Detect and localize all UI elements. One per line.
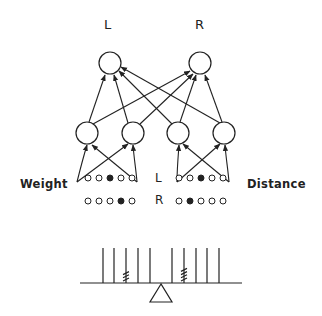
input-unit-weight-left-5 <box>129 175 135 181</box>
input-unit-distance-left-5 <box>220 175 226 181</box>
input-unit-distance-left-3 <box>198 175 204 181</box>
input-unit-distance-right-1 <box>176 198 182 204</box>
input-unit-weight-left-2 <box>96 175 102 181</box>
input-unit-distance-left-4 <box>209 175 215 181</box>
fulcrum <box>150 284 172 302</box>
output-label-right: R <box>195 18 204 31</box>
weights <box>123 268 187 281</box>
hidden-to-output-connections <box>89 67 222 124</box>
hidden-node-2 <box>122 122 144 144</box>
input-unit-weight-right-1 <box>85 198 91 204</box>
input-unit-weight-left-3 <box>107 175 113 181</box>
row-label-left: L <box>155 172 162 184</box>
input-unit-distance-right-3 <box>198 198 204 204</box>
row-label-right: R <box>155 194 163 206</box>
output-node-right <box>189 52 211 74</box>
input-unit-weight-left-4 <box>118 175 124 181</box>
input-unit-distance-right-2 <box>187 198 193 204</box>
network-diagram <box>0 0 322 316</box>
output-label-left: L <box>104 18 111 31</box>
hidden-node-1 <box>76 122 98 144</box>
input-unit-distance-left-2 <box>187 175 193 181</box>
input-unit-weight-left-1 <box>85 175 91 181</box>
input-unit-weight-right-2 <box>96 198 102 204</box>
input-unit-weight-right-5 <box>129 198 135 204</box>
balance-beam <box>80 248 242 302</box>
output-node-left <box>99 52 121 74</box>
input-unit-weight-right-3 <box>107 198 113 204</box>
input-unit-weight-right-4 <box>118 198 124 204</box>
hidden-node-3 <box>167 122 189 144</box>
pegs <box>103 248 219 283</box>
input-unit-distance-left-1 <box>176 175 182 181</box>
input-unit-distance-right-5 <box>220 198 226 204</box>
hidden-node-4 <box>213 122 235 144</box>
distance-label: Distance <box>247 179 306 191</box>
input-unit-distance-right-4 <box>209 198 215 204</box>
weight-label: Weight <box>20 179 68 191</box>
